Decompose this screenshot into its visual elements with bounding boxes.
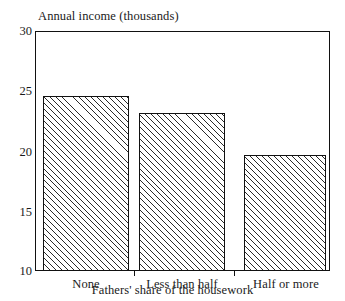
y-tick-label-30: 30 xyxy=(6,25,32,37)
y-tick-label-10: 10 xyxy=(6,265,32,277)
x-tick-mark-2 xyxy=(234,271,235,276)
x-tick-mark-1 xyxy=(134,271,135,276)
bar-none xyxy=(43,96,129,271)
x-axis-title: Fathers' share of the housework xyxy=(0,283,345,298)
y-tick-label-20: 20 xyxy=(6,146,32,158)
y-axis-title: Annual income (thousands) xyxy=(38,9,179,24)
bar-less-than-half xyxy=(139,113,225,271)
bar-chart-figure: Annual income (thousands) 30 25 20 15 10… xyxy=(0,0,345,301)
y-tick-label-25: 25 xyxy=(6,85,32,97)
bar-half-or-more xyxy=(244,155,326,271)
y-tick-label-15: 15 xyxy=(6,206,32,218)
